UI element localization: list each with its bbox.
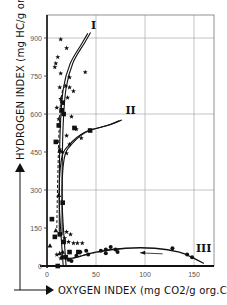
star-marker [83, 70, 88, 75]
x-tick-labels: 050100150 [45, 271, 200, 278]
star-marker [69, 114, 74, 119]
square-marker [61, 112, 66, 117]
square-marker [50, 217, 55, 222]
curve-label-ii: II [125, 104, 135, 117]
y-axis-arrow-icon [15, 163, 25, 172]
x-tick-label: 0 [45, 271, 49, 278]
curve-label-i: I [91, 19, 96, 32]
direction-arrow-icon [140, 251, 145, 255]
triangle-marker [53, 228, 58, 232]
circle-marker [116, 250, 120, 254]
triangle-marker [56, 192, 61, 196]
square-marker [53, 235, 58, 240]
circle-marker [86, 253, 90, 257]
y-tick-label: 900 [30, 35, 42, 42]
star-marker [71, 89, 76, 94]
triangle-marker [60, 249, 65, 253]
circle-marker [170, 246, 174, 250]
star-marker [53, 61, 58, 66]
star-marker [58, 37, 63, 42]
x-tick-label: 50 [92, 271, 100, 278]
curve-ii-line-a [59, 121, 119, 267]
curve-labels: IIIIII [91, 19, 211, 255]
star-marker [54, 105, 59, 110]
circle-marker [74, 254, 78, 258]
x-tick-label: 100 [139, 271, 151, 278]
square-marker [56, 123, 61, 128]
x-tick-label: 150 [188, 271, 200, 278]
x-axis-arrow-icon [46, 285, 54, 295]
star-marker [68, 232, 73, 237]
star-marker [75, 241, 80, 246]
star-marker [55, 54, 60, 59]
circle-marker [99, 249, 103, 253]
circle-marker [185, 253, 189, 257]
evolution-curves [57, 33, 204, 267]
star-marker [64, 46, 69, 51]
star-marker [80, 241, 85, 246]
curve-i-line-a [59, 33, 87, 236]
star-marker [64, 229, 69, 234]
star-marker [52, 65, 57, 70]
square-marker [61, 240, 66, 245]
y-tick-label: 450 [30, 149, 42, 156]
grid-lines [47, 15, 214, 266]
axes [40, 15, 214, 268]
curve-ii-line-b [62, 120, 122, 266]
star-marker [64, 133, 69, 138]
y-tick-label: 300 [30, 187, 42, 194]
x-axis-label: OXYGEN INDEX (mg CO2/g org.C) [58, 285, 227, 296]
y-axis-title: HYDROGEN INDEX (mg HC/g org.C) [15, 0, 26, 290]
curve-label-iii: III [196, 242, 211, 255]
star-marker [71, 241, 76, 246]
x-axis-title: OXYGEN INDEX (mg CO2/g org.C) [14, 285, 227, 296]
square-marker [60, 100, 65, 105]
y-tick-label: 0 [38, 263, 42, 270]
kerogen-van-krevelen-chart: 050100150 0150300450600750900 IIIIII OXY… [0, 0, 227, 305]
square-marker [57, 232, 62, 237]
circle-marker [190, 255, 194, 259]
square-marker [60, 200, 65, 205]
curve-iii-line [61, 248, 204, 264]
square-marker [54, 140, 59, 145]
y-tick-label: 750 [30, 73, 42, 80]
circle-marker [109, 245, 113, 249]
circle-marker [84, 249, 88, 253]
plot-frame [47, 15, 214, 266]
circle-marker [104, 251, 108, 255]
circle-marker [78, 250, 82, 254]
star-marker [57, 85, 62, 90]
star-marker [65, 95, 70, 100]
triangle-marker [48, 243, 53, 247]
square-marker [88, 128, 93, 133]
star-marker [58, 71, 63, 76]
y-tick-label: 150 [30, 225, 42, 232]
star-marker [66, 239, 71, 244]
circle-marker [70, 259, 74, 263]
circle-marker [61, 255, 65, 259]
y-axis-label: HYDROGEN INDEX (mg HC/g org.C) [15, 0, 26, 160]
square-marker [72, 126, 77, 131]
circle-marker [104, 248, 108, 252]
y-tick-label: 600 [30, 111, 42, 118]
square-marker [67, 250, 72, 255]
y-tick-labels: 0150300450600750900 [30, 35, 42, 270]
